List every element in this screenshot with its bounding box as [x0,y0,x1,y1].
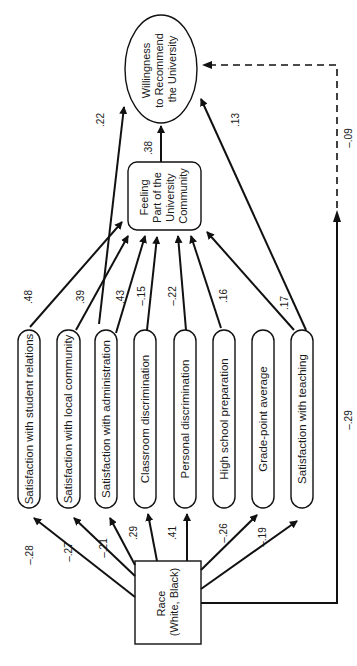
coef-mediator-outcome: .38 [143,141,154,155]
mediator-line-4: Community [177,168,189,224]
pill-teaching: Satisfaction with teaching [291,330,313,508]
mediator-line-3: University [164,173,176,222]
outcome-line-2: to Recommend [153,33,165,108]
race-line-1: Race [155,591,167,617]
svg-text:Satisfaction with student rela: Satisfaction with student relations [23,333,35,504]
race-line-2: (White, Black) [168,568,180,636]
svg-text:Satisfaction with local commun: Satisfaction with local community [62,334,74,503]
predictor-pills: Satisfaction with student relations Sati… [18,330,313,508]
arrow-race-gpa [201,515,257,570]
arrow-teaching-outcome [201,99,306,330]
coef-teaching-outcome: .13 [230,113,241,127]
coef-teaching-mediator: .17 [279,296,290,310]
svg-text:Personal discrimination: Personal discrimination [179,360,191,479]
coef-classroom-mediator: –.15 [136,286,147,306]
outcome-line-3: the University [166,35,178,102]
arrow-teaching-mediator [207,232,294,330]
pill-high-school-preparation: High school preparation [213,330,235,508]
race-direct-arrowhead [202,61,212,69]
coef-race-personal: .41 [167,526,178,540]
arrow-race-student [34,518,135,597]
svg-text:High school preparation: High school preparation [218,358,230,479]
coef-race-teaching: –.19 [257,527,268,547]
coef-admin-mediator: .43 [115,290,126,304]
mediator-node: Feeling Part of the University Community [128,162,201,230]
svg-text:Classroom discrimination: Classroom discrimination [139,355,151,483]
svg-text:Grade-point average: Grade-point average [257,366,269,471]
arrow-classroom-mediator [147,237,157,330]
pill-grade-point-average: Grade-point average [252,330,274,508]
coef-personal-mediator: –.22 [167,286,178,306]
coef-hs-mediator: .16 [218,289,229,303]
race-direct-dashed [212,65,337,208]
coef-race-outcome-total: –.29 [343,410,354,430]
svg-text:Satisfaction with administrati: Satisfaction with administration [100,340,112,498]
arrow-race-classroom [148,514,157,561]
mediator-line-2: Part of the [151,172,163,223]
arrow-race-admin [110,518,135,565]
svg-text:Satisfaction with teaching: Satisfaction with teaching [296,354,308,484]
coef-race-outcome-direct: –.09 [343,128,354,148]
coef-race-gpa: –.26 [218,523,229,543]
coef-race-student: –.28 [24,545,35,565]
mediator-line-1: Feeling [138,179,150,215]
coef-community-mediator: .39 [75,290,86,304]
coef-student-mediator: .48 [23,290,34,304]
pill-administration: Satisfaction with administration [95,330,117,508]
predictor-to-mediator-arrows [30,222,294,333]
outcome-node: Willingness to Recommend the University [125,15,197,123]
pill-local-community: Satisfaction with local community [57,330,80,508]
pill-classroom-discrimination: Classroom discrimination [134,330,156,508]
outcome-line-1: Willingness [140,42,152,98]
pill-student-relations: Satisfaction with student relations [18,330,40,508]
svg-text:Willingness to Recommend: Willingness to Recommend the University [140,30,178,108]
path-diagram: Willingness to Recommend the University … [0,0,357,666]
pill-personal-discrimination: Personal discrimination [174,330,196,508]
coef-race-classroom: .29 [128,526,139,540]
race-total-arrowhead [333,210,341,222]
arrow-hs-mediator [191,236,221,328]
coef-race-community: –.27 [63,542,74,562]
coef-admin-outcome: .22 [95,113,106,127]
coef-race-admin: –.21 [98,538,109,558]
arrow-personal-mediator [178,236,186,330]
race-node: Race (White, Black) [135,561,201,644]
